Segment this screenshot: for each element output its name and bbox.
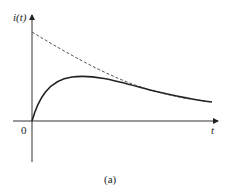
plot (0, 0, 230, 190)
dashed-envelope-curve (32, 32, 212, 102)
origin-label: 0 (21, 125, 27, 136)
y-axis-label: i(t) (13, 12, 26, 23)
solid-response-curve (32, 76, 212, 121)
figure-caption: (a) (104, 174, 116, 185)
x-axis-label: t (211, 125, 214, 136)
